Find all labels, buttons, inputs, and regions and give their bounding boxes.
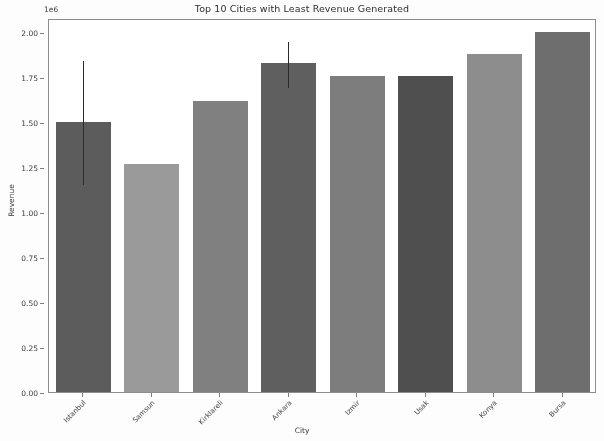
bar[interactable] [124, 164, 179, 392]
bar-chart-figure: Top 10 Cities with Least Revenue Generat… [0, 0, 604, 441]
x-tick-mark [356, 393, 357, 397]
y-tick-mark [40, 78, 44, 79]
y-tick-label: 1.50 [21, 119, 38, 128]
error-bar [83, 61, 84, 185]
y-tick-mark [40, 168, 44, 169]
y-tick-label: 1.00 [21, 209, 38, 218]
y-tick-mark [40, 258, 44, 259]
bar[interactable] [535, 32, 590, 392]
chart-title: Top 10 Cities with Least Revenue Generat… [0, 3, 604, 14]
x-tick-mark [82, 393, 83, 397]
x-tick-mark [425, 393, 426, 397]
x-tick-mark [288, 393, 289, 397]
y-tick-mark [40, 33, 44, 34]
y-tick-label: 1.75 [21, 74, 38, 83]
y-tick-mark [40, 393, 44, 394]
y-tick-label: 0.50 [21, 299, 38, 308]
bar[interactable] [261, 63, 316, 392]
plot-area [48, 19, 596, 393]
y-tick-mark [40, 348, 44, 349]
error-bar [288, 42, 289, 89]
y-axis-ticks: 0.000.250.500.751.001.251.501.752.00 [0, 0, 48, 441]
bar[interactable] [467, 54, 522, 392]
x-axis-title: City [0, 426, 604, 435]
bar[interactable] [330, 76, 385, 392]
x-tick-mark [493, 393, 494, 397]
bar[interactable] [398, 76, 453, 392]
y-tick-mark [40, 303, 44, 304]
bar[interactable] [193, 101, 248, 392]
y-tick-label: 0.75 [21, 254, 38, 263]
x-tick-mark [219, 393, 220, 397]
y-tick-label: 0.25 [21, 344, 38, 353]
y-tick-label: 1.25 [21, 164, 38, 173]
bars-layer [49, 20, 595, 392]
y-tick-mark [40, 123, 44, 124]
x-tick-mark [151, 393, 152, 397]
y-tick-label: 0.00 [21, 389, 38, 398]
y-tick-label: 2.00 [21, 29, 38, 38]
y-axis-title: Revenue [7, 184, 16, 217]
y-tick-mark [40, 213, 44, 214]
x-tick-mark [562, 393, 563, 397]
